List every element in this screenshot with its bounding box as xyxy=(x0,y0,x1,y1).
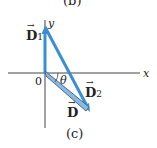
vector-diagram: (b) y x 0 θ D1 D2 D (c) xyxy=(0,0,157,148)
vector-d2 xyxy=(45,27,88,108)
x-axis-label: x xyxy=(143,68,149,79)
d-resultant-label: D xyxy=(67,106,78,119)
d2-label: D2 xyxy=(85,86,102,99)
previous-caption: (b) xyxy=(63,0,81,7)
y-axis-label: y xyxy=(48,18,54,29)
figure-caption: (c) xyxy=(66,127,83,140)
angle-theta-label: θ xyxy=(60,75,67,86)
origin-label: 0 xyxy=(35,76,42,87)
d1-label: D1 xyxy=(26,29,43,42)
